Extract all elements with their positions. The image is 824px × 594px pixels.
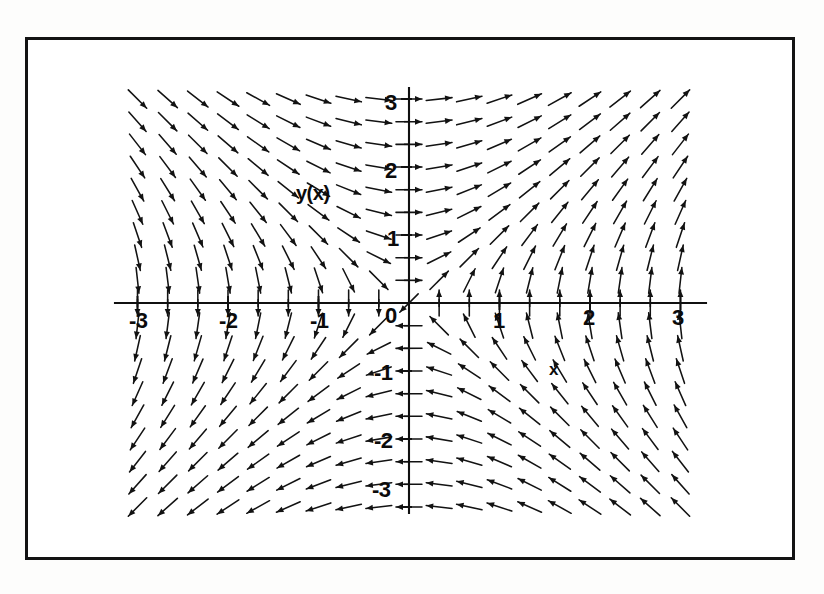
xtick-label-neg1: -1 (310, 308, 329, 334)
ytick-label-neg1: -1 (374, 360, 393, 386)
ytick-label-pos3: 3 (385, 90, 397, 116)
xtick-label-pos2: 2 (583, 305, 595, 331)
xtick-label-pos1: 1 (493, 308, 505, 334)
ytick-label-neg3: -3 (372, 477, 391, 503)
xtick-label-neg3: -3 (129, 308, 148, 334)
ytick-label-pos1: 1 (387, 226, 399, 252)
direction-field-plot: .arrow{stroke:#121212;stroke-width:1.55;… (0, 0, 824, 594)
xtick-label-neg2: -2 (219, 308, 238, 334)
x-axis-name-label: x (549, 360, 558, 380)
xtick-label-zero: 0 (385, 303, 397, 329)
ytick-label-neg2: -2 (374, 428, 393, 454)
vector-field-canvas: .arrow{stroke:#121212;stroke-width:1.55;… (0, 0, 824, 594)
xtick-label-pos3: 3 (672, 305, 684, 331)
ytick-label-pos2: 2 (385, 158, 397, 184)
y-axis-name-label: y(x) (296, 182, 330, 205)
